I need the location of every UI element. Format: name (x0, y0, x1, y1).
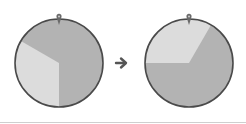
right-arrow-icon (116, 59, 126, 68)
spinner-diagram (0, 0, 246, 124)
spinner-after (145, 14, 233, 107)
spinner-before (15, 14, 103, 107)
